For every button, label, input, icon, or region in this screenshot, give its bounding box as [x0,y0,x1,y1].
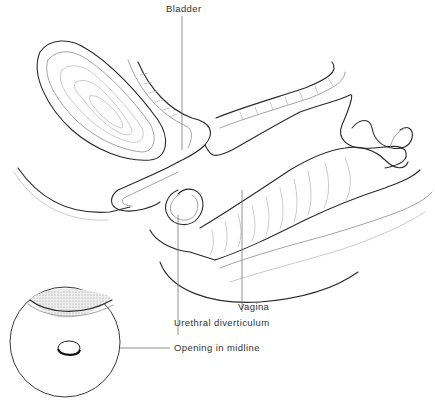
label-urethral-diverticulum: Urethral diverticulum [174,317,270,328]
pubic-bone [37,41,165,160]
label-vagina: Vagina [238,301,269,312]
label-bladder: Bladder [166,3,202,14]
inset-view [10,287,120,397]
urethral-diverticulum [166,189,203,224]
cervix [352,121,412,149]
vagina [150,147,420,260]
label-opening-in-midline: Opening in midline [174,342,260,353]
urethra [112,95,407,211]
bladder-wall [128,60,345,162]
posterior-wall [160,192,432,302]
